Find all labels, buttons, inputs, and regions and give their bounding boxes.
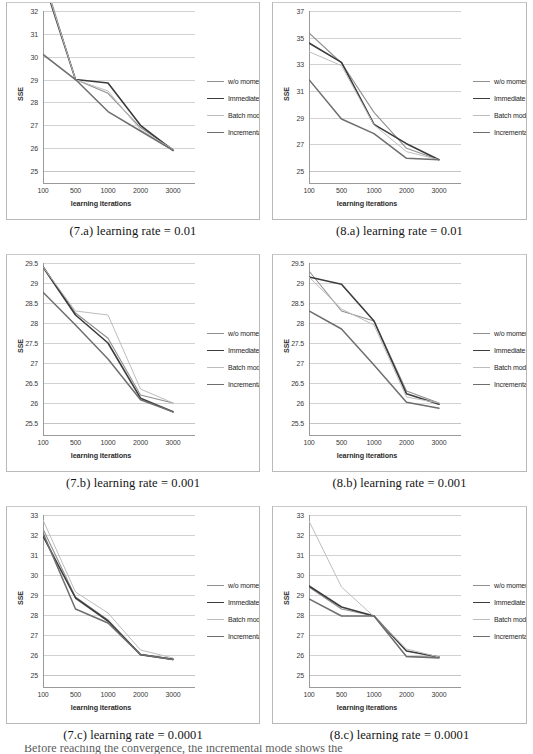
legend-swatch-icon	[207, 367, 224, 368]
chart-caption: (8.c) learning rate = 0.0001	[266, 724, 533, 743]
chart-cell-8c: 252627282930313233100500100020003000lear…	[266, 504, 533, 744]
series-line	[43, 292, 173, 412]
legend-swatch-icon	[473, 115, 490, 116]
chart-caption: (8.b) learning rate = 0.001	[266, 472, 533, 491]
legend-item-label: Immediate mode	[228, 95, 260, 102]
legend-swatch-icon	[473, 585, 490, 586]
chart-7a: 2526272829303132100500100020003000learni…	[6, 2, 260, 220]
series-line	[43, 267, 173, 412]
legend-swatch-icon	[473, 636, 490, 637]
legend-item[interactable]: Batch mode	[207, 611, 260, 628]
legend-item[interactable]: Incremental mode	[473, 376, 527, 393]
chart-7b: 25.52626.52727.52828.52929.5100500100020…	[6, 254, 260, 472]
legend-item-label: w/o momentum	[494, 78, 527, 85]
chart-cell-8b: 25.52626.52727.52828.52929.5100500100020…	[266, 252, 533, 504]
legend-item[interactable]: w/o momentum	[207, 73, 260, 90]
legend-item[interactable]: Immediate mode	[473, 342, 527, 359]
legend-item[interactable]: w/o momentum	[473, 577, 527, 594]
chart-caption: (7.b) learning rate = 0.001	[0, 472, 266, 491]
legend-item-label: Immediate mode	[228, 347, 260, 354]
series-line	[309, 33, 439, 160]
legend-item[interactable]: w/o momentum	[207, 325, 260, 342]
chart-legend: w/o momentumImmediate modeBatch modeIncr…	[207, 577, 260, 645]
legend-item[interactable]: w/o momentum	[207, 577, 260, 594]
legend-item[interactable]: Batch mode	[473, 611, 527, 628]
series-line	[43, 2, 173, 149]
series-line	[43, 2, 173, 150]
legend-swatch-icon	[207, 585, 224, 586]
legend-item-label: Incremental mode	[494, 633, 527, 640]
legend-swatch-icon	[473, 333, 490, 334]
series-line	[43, 266, 173, 403]
chart-cell-7a: 2526272829303132100500100020003000learni…	[0, 0, 266, 252]
legend-item-label: w/o momentum	[228, 582, 260, 589]
chart-caption: (7.c) learning rate = 0.0001	[0, 724, 266, 743]
series-line	[309, 52, 439, 160]
chart-legend: w/o momentumImmediate modeBatch modeIncr…	[473, 73, 527, 141]
series-line	[309, 271, 439, 403]
legend-item-label: Batch mode	[228, 364, 260, 371]
chart-cell-7b: 25.52626.52727.52828.52929.5100500100020…	[0, 252, 266, 504]
legend-swatch-icon	[207, 636, 224, 637]
legend-swatch-icon	[207, 115, 224, 116]
legend-swatch-icon	[473, 619, 490, 620]
legend-item-label: w/o momentum	[494, 330, 527, 337]
legend-swatch-icon	[473, 132, 490, 133]
series-line	[309, 586, 439, 657]
legend-item-label: Batch mode	[494, 112, 527, 119]
legend-swatch-icon	[207, 384, 224, 385]
legend-item[interactable]: Batch mode	[473, 107, 527, 124]
series-line	[43, 267, 173, 403]
legend-item[interactable]: w/o momentum	[473, 325, 527, 342]
series-line	[309, 599, 439, 658]
chart-caption: (7.a) learning rate = 0.01	[0, 220, 266, 239]
legend-item[interactable]: Immediate mode	[473, 594, 527, 611]
chart-cell-7c: 252627282930313233100500100020003000lear…	[0, 504, 266, 744]
legend-swatch-icon	[207, 81, 224, 82]
chart-caption: (8.a) learning rate = 0.01	[266, 220, 533, 239]
chart-8c: 252627282930313233100500100020003000lear…	[272, 506, 527, 724]
legend-item[interactable]: Incremental mode	[473, 628, 527, 645]
chart-legend: w/o momentumImmediate modeBatch modeIncr…	[207, 325, 260, 393]
legend-item[interactable]: Immediate mode	[473, 90, 527, 107]
legend-swatch-icon	[473, 384, 490, 385]
legend-item-label: Incremental mode	[228, 381, 260, 388]
legend-item-label: Batch mode	[494, 616, 527, 623]
legend-swatch-icon	[207, 98, 224, 99]
legend-item[interactable]: Immediate mode	[207, 90, 260, 107]
legend-item-label: Incremental mode	[494, 381, 527, 388]
chart-8a: 25272931333537100500100020003000learning…	[272, 2, 527, 220]
series-line	[43, 2, 173, 149]
legend-item-label: Batch mode	[494, 364, 527, 371]
legend-item-label: Batch mode	[228, 112, 260, 119]
legend-swatch-icon	[473, 602, 490, 603]
legend-item[interactable]: Immediate mode	[207, 342, 260, 359]
legend-item-label: Immediate mode	[494, 599, 527, 606]
legend-item-label: Batch mode	[228, 616, 260, 623]
legend-item[interactable]: Incremental mode	[207, 376, 260, 393]
legend-item[interactable]: Incremental mode	[207, 628, 260, 645]
legend-item[interactable]: Immediate mode	[207, 594, 260, 611]
legend-item-label: w/o momentum	[228, 78, 260, 85]
legend-item[interactable]: Batch mode	[207, 359, 260, 376]
legend-item-label: Immediate mode	[228, 599, 260, 606]
chart-legend: w/o momentumImmediate modeBatch modeIncr…	[473, 577, 527, 645]
series-line	[309, 277, 439, 403]
legend-item[interactable]: Batch mode	[473, 359, 527, 376]
legend-item[interactable]: Incremental mode	[207, 124, 260, 141]
chart-cell-8a: 25272931333537100500100020003000learning…	[266, 0, 533, 252]
legend-item-label: Incremental mode	[228, 633, 260, 640]
legend-item-label: w/o momentum	[228, 330, 260, 337]
legend-swatch-icon	[207, 350, 224, 351]
figure-page: 2526272829303132100500100020003000learni…	[0, 0, 533, 754]
chart-8b: 25.52626.52727.52828.52929.5100500100020…	[272, 254, 527, 472]
legend-item[interactable]: Incremental mode	[473, 124, 527, 141]
legend-swatch-icon	[207, 132, 224, 133]
chart-grid: 2526272829303132100500100020003000learni…	[0, 0, 533, 744]
legend-swatch-icon	[473, 81, 490, 82]
legend-item-label: Incremental mode	[494, 129, 527, 136]
legend-swatch-icon	[207, 333, 224, 334]
legend-item[interactable]: w/o momentum	[473, 73, 527, 90]
legend-item[interactable]: Batch mode	[207, 107, 260, 124]
legend-item-label: Incremental mode	[228, 129, 260, 136]
